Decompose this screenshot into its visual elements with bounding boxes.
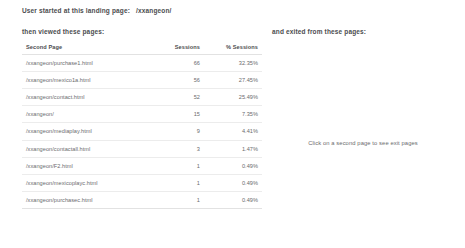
table-row[interactable]: /xxangeon/mediaplay.html 9 4.41%: [22, 123, 262, 140]
cell-page[interactable]: /xxangeon/contact.html: [22, 89, 146, 106]
cell-pct: 1.47%: [204, 140, 262, 157]
second-pages-table: Second Page Sessions % Sessions /xxangeo…: [22, 41, 262, 209]
cell-pct: 0.49%: [204, 157, 262, 174]
cell-page[interactable]: /xxangeon/contactall.html: [22, 140, 146, 157]
cell-page[interactable]: /xxangeon/purchasec.html: [22, 191, 146, 208]
table-header-row: Second Page Sessions % Sessions: [22, 41, 262, 55]
table-row[interactable]: /xxangeon/contactall.html 3 1.47%: [22, 140, 262, 157]
exit-pages-hint: Click on a second page to see exit pages: [268, 140, 458, 146]
table-body: /xxangeon/purchase1.html 66 32.35% /xxan…: [22, 55, 262, 209]
cell-page[interactable]: /xxangeon/mexico1a.html: [22, 72, 146, 89]
cell-page[interactable]: /xxangeon/mediaplay.html: [22, 123, 146, 140]
table-row[interactable]: /xxangeon/mexicoplayc.html 1 0.49%: [22, 174, 262, 191]
cell-sessions: 52: [146, 89, 204, 106]
cell-pct: 32.35%: [204, 55, 262, 72]
table-row[interactable]: /xxangeon/ 15 7.35%: [22, 106, 262, 123]
cell-sessions: 1: [146, 157, 204, 174]
column-header-sessions[interactable]: Sessions: [146, 41, 204, 55]
second-pages-caption: then viewed these pages:: [22, 28, 104, 35]
cell-sessions: 9: [146, 123, 204, 140]
cell-sessions: 66: [146, 55, 204, 72]
landing-page-line: User started at this landing page:/xxang…: [22, 7, 172, 14]
cell-page[interactable]: /xxangeon/mexicoplayc.html: [22, 174, 146, 191]
cell-sessions: 1: [146, 191, 204, 208]
cell-pct: 27.45%: [204, 72, 262, 89]
table-row[interactable]: /xxangeon/contact.html 52 25.49%: [22, 89, 262, 106]
landing-page-label: User started at this landing page:: [22, 7, 130, 14]
exit-pages-caption: and exited from these pages:: [272, 28, 366, 35]
cell-page[interactable]: /xxangeon/: [22, 106, 146, 123]
cell-page[interactable]: /xxangeon/F2.html: [22, 157, 146, 174]
navigation-summary-page: User started at this landing page:/xxang…: [0, 0, 465, 248]
cell-pct: 4.41%: [204, 123, 262, 140]
table-row[interactable]: /xxangeon/mexico1a.html 56 27.45%: [22, 72, 262, 89]
cell-pct: 7.35%: [204, 106, 262, 123]
column-header-second-page[interactable]: Second Page: [22, 41, 146, 55]
table-row[interactable]: /xxangeon/F2.html 1 0.49%: [22, 157, 262, 174]
table-row[interactable]: /xxangeon/purchase1.html 66 32.35%: [22, 55, 262, 72]
cell-pct: 0.49%: [204, 191, 262, 208]
landing-page-value: /xxangeon/: [136, 7, 171, 14]
cell-sessions: 1: [146, 174, 204, 191]
cell-pct: 0.49%: [204, 174, 262, 191]
cell-sessions: 56: [146, 72, 204, 89]
table-row[interactable]: /xxangeon/purchasec.html 1 0.49%: [22, 191, 262, 208]
cell-sessions: 15: [146, 106, 204, 123]
cell-page[interactable]: /xxangeon/purchase1.html: [22, 55, 146, 72]
column-header-pct-sessions[interactable]: % Sessions: [204, 41, 262, 55]
cell-sessions: 3: [146, 140, 204, 157]
cell-pct: 25.49%: [204, 89, 262, 106]
